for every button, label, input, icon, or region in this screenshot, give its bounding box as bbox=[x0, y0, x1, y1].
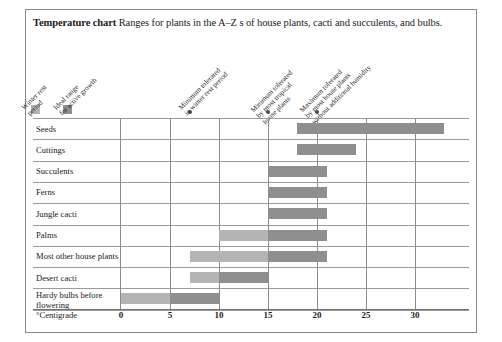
row-label: Jungle cacti bbox=[36, 209, 77, 219]
x-axis: °Centigrade 051015202530 bbox=[33, 310, 469, 326]
bar-ideal-range bbox=[297, 144, 356, 155]
grid-row-line bbox=[33, 225, 469, 226]
bar-ideal-range bbox=[268, 166, 327, 177]
title-bold: Temperature chart bbox=[33, 17, 116, 28]
grid-row-line bbox=[33, 288, 469, 289]
x-axis-tick-label: 0 bbox=[119, 310, 124, 320]
row-label: Most other house plants bbox=[36, 251, 118, 261]
grid-row-line bbox=[33, 161, 469, 162]
bar-ideal-range bbox=[268, 230, 327, 241]
grid-row-line bbox=[33, 118, 469, 119]
grid-row-line bbox=[33, 182, 469, 183]
bar-ideal-range bbox=[268, 208, 327, 219]
x-axis-tick-label: 15 bbox=[264, 310, 273, 320]
x-axis-tick-label: 5 bbox=[168, 310, 173, 320]
bar-ideal-range bbox=[268, 251, 327, 262]
x-axis-tick-label: 30 bbox=[411, 310, 420, 320]
bar-ideal-range bbox=[170, 293, 219, 304]
bar-ideal-range bbox=[297, 123, 444, 134]
grid-vertical-line bbox=[366, 118, 367, 310]
bar-winter-rest bbox=[121, 293, 170, 304]
row-label: Palms bbox=[36, 230, 57, 240]
row-label: Desert cacti bbox=[36, 273, 77, 283]
title-rest: Ranges for plants in the A–Z s of house … bbox=[116, 17, 442, 28]
grid-row-line bbox=[33, 139, 469, 140]
row-label: Seeds bbox=[36, 124, 56, 134]
row-label: Succulents bbox=[36, 166, 73, 176]
bar-winter-rest bbox=[190, 272, 219, 283]
x-axis-unit-label: °Centigrade bbox=[36, 310, 77, 320]
row-label: Hardy bulbs before flowering bbox=[36, 291, 116, 310]
bar-ideal-range bbox=[219, 272, 268, 283]
bar-winter-rest bbox=[190, 251, 268, 262]
row-label: Cuttings bbox=[36, 145, 65, 155]
x-axis-tick-label: 25 bbox=[362, 310, 371, 320]
grid-vertical-line bbox=[415, 118, 416, 310]
x-axis-tick-label: 20 bbox=[313, 310, 322, 320]
page-title: Temperature chart Ranges for plants in t… bbox=[33, 16, 473, 29]
x-axis-tick-label: 10 bbox=[215, 310, 224, 320]
chart-plot-area: SeedsCuttingsSucculentsFernsJungle cacti… bbox=[33, 118, 469, 310]
grid-row-line bbox=[33, 203, 469, 204]
label-column-divider bbox=[120, 118, 121, 310]
bar-winter-rest bbox=[219, 230, 268, 241]
row-label: Ferns bbox=[36, 187, 55, 197]
grid-row-line bbox=[33, 267, 469, 268]
grid-row-line bbox=[33, 246, 469, 247]
bar-ideal-range bbox=[268, 187, 327, 198]
grid-vertical-line bbox=[170, 118, 171, 310]
